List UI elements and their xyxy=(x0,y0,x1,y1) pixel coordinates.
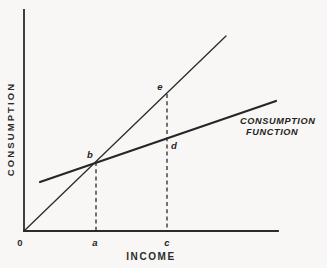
point-label-a: a xyxy=(92,237,97,248)
diagram-canvas: CONSUMPTION INCOME 0 a b c d e CONSUMPTI… xyxy=(0,0,327,268)
x-axis-label: INCOME xyxy=(126,251,176,262)
point-label-d: d xyxy=(171,140,177,151)
curve-label-line2: FUNCTION xyxy=(246,127,298,137)
point-label-b: b xyxy=(87,149,93,160)
curve-label-line1: CONSUMPTION xyxy=(240,116,316,126)
consumption-function-diagram: CONSUMPTION INCOME 0 a b c d e CONSUMPTI… xyxy=(0,0,327,268)
y-axis-label: CONSUMPTION xyxy=(5,82,16,176)
consumption-function-line xyxy=(40,101,276,182)
origin-label: 0 xyxy=(17,237,22,248)
forty-five-degree-line xyxy=(24,36,226,231)
point-label-c: c xyxy=(164,237,170,248)
point-label-e: e xyxy=(157,81,163,92)
